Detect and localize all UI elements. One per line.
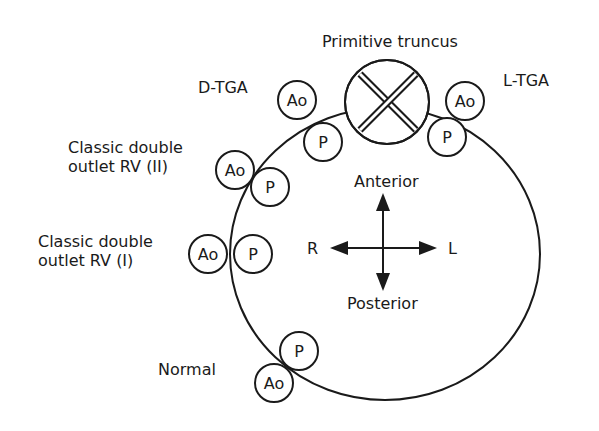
- posterior-label: Posterior: [347, 294, 418, 313]
- l-tga-vessels: Ao P: [428, 82, 484, 156]
- dorv-i-label-line1: Classic double: [38, 232, 153, 251]
- normal-label: Normal: [158, 360, 216, 379]
- l-tga-label: L-TGA: [503, 71, 549, 90]
- arrow-up-icon: [376, 193, 390, 211]
- primitive-truncus-label: Primitive truncus: [322, 32, 458, 51]
- l-tga-aorta-label: Ao: [455, 92, 475, 111]
- orientation-arrows-icon: [330, 193, 437, 291]
- d-tga-label: D-TGA: [198, 78, 248, 97]
- d-tga-vessels: Ao P: [278, 81, 342, 161]
- normal-pulmonary-label: P: [294, 342, 304, 361]
- diagram-canvas: Ao P Ao P Ao P Ao P P Ao: [0, 0, 599, 431]
- dorv-ii-pulmonary-label: P: [265, 178, 275, 197]
- l-tga-pulmonary-label: P: [442, 128, 452, 147]
- dorv-ii-vessels: Ao P: [216, 151, 289, 206]
- arrow-down-icon: [376, 273, 390, 291]
- dorv-i-pulmonary-label: P: [248, 245, 258, 264]
- dorv-ii-label-line1: Classic double: [68, 138, 183, 157]
- left-label: L: [448, 239, 457, 258]
- anterior-label: Anterior: [354, 172, 419, 191]
- dorv-i-aorta-label: Ao: [198, 245, 218, 264]
- primitive-truncus-icon: [345, 60, 429, 144]
- d-tga-aorta-label: Ao: [287, 91, 307, 110]
- dorv-i-label-line2: outlet RV (I): [38, 251, 133, 270]
- right-label: R: [307, 239, 318, 258]
- arrow-left-icon: [330, 241, 348, 255]
- normal-aorta-label: Ao: [264, 374, 284, 393]
- dorv-ii-label-line2: outlet RV (II): [68, 157, 168, 176]
- arrow-right-icon: [419, 241, 437, 255]
- d-tga-pulmonary-label: P: [318, 133, 328, 152]
- dorv-ii-aorta-label: Ao: [225, 161, 245, 180]
- ventricle-outline: [230, 108, 540, 400]
